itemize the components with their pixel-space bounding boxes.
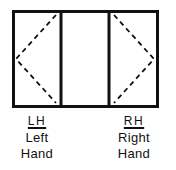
left-swing-indicator [16, 15, 56, 103]
right-hand-abbreviation: RH [112, 114, 156, 128]
right-hand-label-group: RH Right Hand [112, 114, 156, 161]
left-hand-word-hand: Hand [15, 147, 59, 161]
left-hand-word-left: Left [15, 131, 59, 145]
window-frame [14, 12, 158, 107]
right-hand-word-hand: Hand [112, 147, 156, 161]
right-hand-word-right: Right [112, 131, 156, 145]
left-hand-label-group: LH Left Hand [15, 114, 59, 161]
window-elevation-diagram [0, 0, 176, 112]
right-swing-indicator [114, 15, 154, 103]
left-hand-abbreviation: LH [15, 114, 59, 128]
